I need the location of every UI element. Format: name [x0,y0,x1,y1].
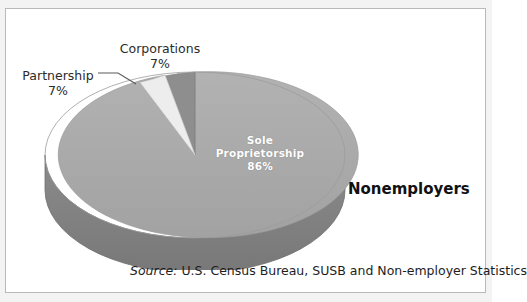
label-sole-value: 86% [247,160,273,172]
label-corporations: Corporations 7% [101,41,219,71]
label-sole-line1: Sole [247,134,273,146]
label-partnership-value: 7% [48,83,68,98]
source-text: U.S. Census Bureau, SUSB and Non-employe… [177,263,527,278]
source-note: Source: U.S. Census Bureau, SUSB and Non… [130,263,527,278]
label-corporations-value: 7% [150,56,170,71]
label-sole-proprietorship: Sole Proprietorship 86% [205,134,315,173]
chart-category-title: Nonemployers [348,180,470,198]
label-sole-line2: Proprietorship [216,147,305,159]
label-partnership-name: Partnership [22,68,93,83]
source-prefix: Source: [130,263,177,278]
label-partnership: Partnership 7% [2,68,114,98]
label-corporations-name: Corporations [120,41,200,56]
